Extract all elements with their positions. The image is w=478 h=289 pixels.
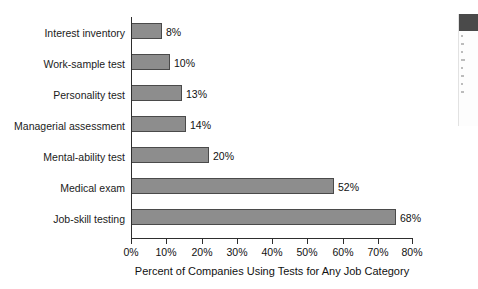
category-label: Interest inventory [44, 28, 125, 39]
x-axis-tick-label: 70% [361, 247, 395, 258]
y-axis-line [131, 17, 132, 239]
side-panel-text-sliver [461, 75, 464, 77]
x-axis-tick-label: 0% [114, 247, 148, 258]
side-panel-cropped [458, 14, 478, 126]
bar-work-sample-test [131, 54, 170, 70]
x-axis-tick [237, 239, 238, 244]
category-label: Mental-ability test [43, 152, 125, 163]
x-axis-tick-label: 40% [255, 247, 289, 258]
x-axis-tick-label: 60% [326, 247, 360, 258]
x-axis-tick-label: 80% [395, 247, 429, 258]
bar-value-label: 10% [174, 58, 195, 69]
bar-value-label: 13% [186, 89, 207, 100]
x-axis-tick [272, 239, 273, 244]
x-axis-tick [202, 239, 203, 244]
bar-personality-test [131, 85, 182, 101]
side-panel-text-sliver [461, 51, 463, 53]
bar-value-label: 52% [338, 182, 359, 193]
side-panel-text-sliver [461, 35, 463, 37]
category-label: Job-skill testing [53, 214, 125, 225]
side-panel-text-sliver [461, 43, 464, 45]
x-axis-tick [343, 239, 344, 244]
bar-value-label: 20% [213, 151, 234, 162]
x-axis-tick [131, 239, 132, 244]
bar-value-label: 8% [166, 27, 181, 38]
x-axis-tick-label: 10% [149, 247, 183, 258]
x-axis-tick [378, 239, 379, 244]
bar-mental-ability-test [131, 147, 209, 163]
bar-value-label: 14% [190, 120, 211, 131]
category-label: Personality test [53, 90, 125, 101]
x-axis-tick-label: 20% [185, 247, 219, 258]
x-axis-tick [307, 239, 308, 244]
side-panel-body [459, 31, 478, 93]
side-panel-text-sliver [461, 67, 463, 69]
bar-interest-inventory [131, 23, 162, 39]
x-axis-title: Percent of Companies Using Tests for Any… [131, 266, 413, 277]
category-label: Work-sample test [44, 59, 126, 70]
side-panel-header [459, 14, 478, 31]
bar-value-label: 68% [400, 213, 421, 224]
side-panel-text-sliver [461, 59, 465, 61]
x-axis-tick-label: 50% [290, 247, 324, 258]
category-label: Managerial assessment [14, 121, 125, 132]
x-axis-tick [166, 239, 167, 244]
side-panel-text-sliver [461, 91, 464, 93]
x-axis-tick-label: 30% [220, 247, 254, 258]
bar-managerial-assessment [131, 116, 186, 132]
x-axis-tick [412, 239, 413, 244]
side-panel-text-sliver [461, 83, 463, 85]
bar-medical-exam [131, 178, 334, 194]
bar-job-skill-testing [131, 209, 396, 225]
category-label: Medical exam [60, 183, 125, 194]
